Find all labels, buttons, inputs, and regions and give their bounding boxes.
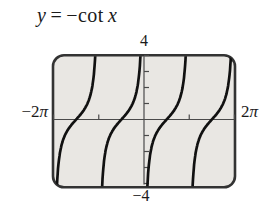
xmax-label: 2π [241, 102, 258, 122]
equals-sign: = [46, 4, 66, 26]
xmax-number: 2 [241, 102, 250, 121]
xmin-label: −2π [4, 102, 48, 122]
xmax-pi-symbol: π [250, 102, 259, 121]
ymax-label: 4 [140, 32, 148, 50]
equation-y: y [37, 4, 46, 26]
equation-x: x [108, 4, 117, 26]
xmin-number: −2 [21, 102, 39, 121]
ymin-label: −4 [132, 187, 149, 205]
figure-neg-cot-graph: y=−cotx 4 −4 −2π 2π [0, 0, 269, 207]
equation-function: −cot [66, 4, 108, 26]
xmin-pi-symbol: π [39, 102, 48, 121]
equation-title: y=−cotx [37, 4, 117, 27]
